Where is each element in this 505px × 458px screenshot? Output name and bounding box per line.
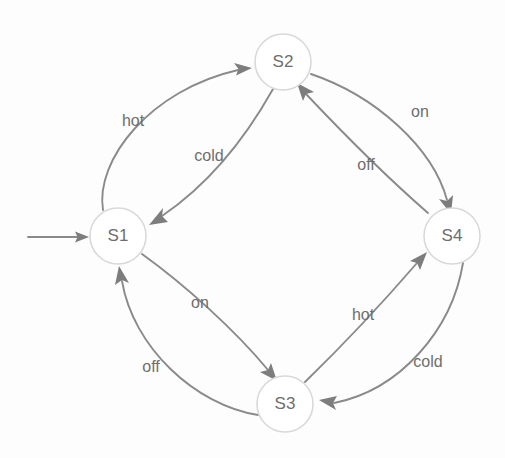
transition-s2-s1-arrowhead-icon xyxy=(149,208,168,225)
state-diagram-canvas: hot cold on off on off hot cold S1 S2 S3… xyxy=(0,0,505,458)
start-arrow xyxy=(28,232,89,243)
transition-s2-s4-path xyxy=(311,74,447,200)
edge-label-s1-s2: hot xyxy=(122,112,145,129)
state-node-s4-label: S4 xyxy=(441,226,462,245)
edge-label-s3-s4: hot xyxy=(352,306,375,323)
edge-label-s4-s2: off xyxy=(357,156,375,173)
state-node-s1-label: S1 xyxy=(107,226,128,245)
transition-s1-s3[interactable] xyxy=(142,254,277,381)
state-node-s2-label: S2 xyxy=(272,52,293,71)
transition-s4-s2[interactable] xyxy=(297,83,428,213)
state-node-s1[interactable]: S1 xyxy=(90,208,146,264)
state-node-s4[interactable]: S4 xyxy=(424,208,480,264)
transition-s2-s4[interactable] xyxy=(311,74,453,214)
edge-label-s1-s3: on xyxy=(191,294,209,311)
transition-s4-s2-arrowhead-icon xyxy=(297,83,314,101)
transition-s4-s2-path xyxy=(306,94,428,213)
transition-s1-s2-path xyxy=(102,70,238,210)
edge-label-s2-s1: cold xyxy=(194,147,223,164)
state-diagram: hot cold on off on off hot cold S1 S2 S3… xyxy=(0,0,505,458)
state-node-s3[interactable]: S3 xyxy=(257,376,313,432)
transition-s3-s1-path xyxy=(122,281,258,415)
transition-s1-s3-path xyxy=(142,254,268,370)
edge-label-s2-s4: on xyxy=(411,103,429,120)
transition-s1-s2-arrowhead-icon xyxy=(234,63,252,76)
transition-s4-s3[interactable] xyxy=(319,263,463,410)
state-node-s2[interactable]: S2 xyxy=(255,34,311,90)
transition-s1-s2[interactable] xyxy=(102,63,252,210)
edge-label-s4-s3: cold xyxy=(413,353,442,370)
state-node-s3-label: S3 xyxy=(274,394,295,413)
edge-label-s3-s1: off xyxy=(142,358,160,375)
